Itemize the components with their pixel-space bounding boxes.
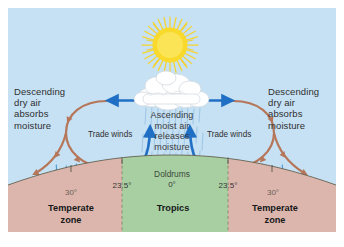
label-latitude-235-left: 23.5° — [107, 181, 137, 190]
label-trade-winds-left: Trade winds — [88, 130, 132, 140]
label-zone-tropics: Tropics — [140, 203, 206, 215]
label-zone-temperate-left: Temperate zone — [26, 203, 116, 226]
label-latitude-0: 0° — [160, 180, 184, 189]
label-latitude-30-right: 30° — [260, 188, 286, 197]
label-latitude-235-right: 23.5° — [213, 181, 243, 190]
label-latitude-30-left: 30° — [58, 188, 84, 197]
label-descending-right: Descending dry air absorbs moisture — [268, 86, 319, 131]
label-zone-temperate-right: Temperate zone — [230, 203, 320, 226]
earth-surface-tropics — [122, 152, 228, 234]
climate-circulation-figure: Descending dry air absorbs moisture Desc… — [0, 0, 344, 247]
label-trade-winds-right: Trade winds — [207, 130, 251, 140]
label-descending-left: Descending dry air absorbs moisture — [14, 86, 65, 131]
label-ascending-moist-air: Ascending moist air releases moisture — [144, 110, 200, 152]
label-doldrums: Doldrums — [146, 170, 198, 180]
